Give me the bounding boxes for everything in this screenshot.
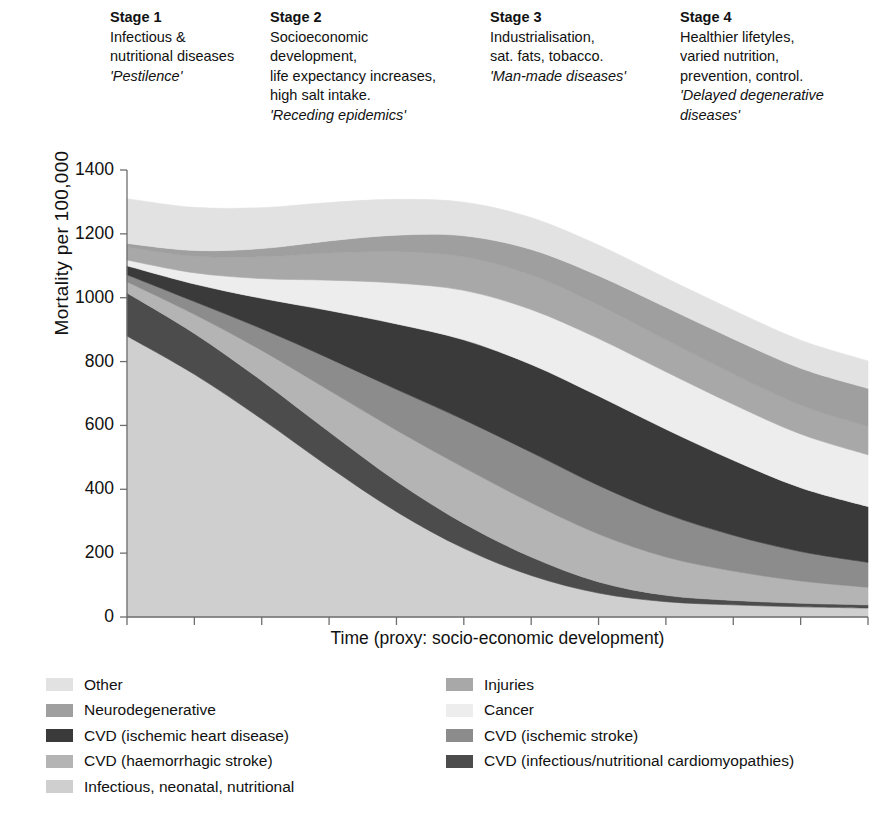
legend-label: Other bbox=[84, 676, 123, 694]
legend-swatch-icon bbox=[446, 729, 473, 742]
legend-swatch-icon bbox=[46, 780, 73, 793]
legend-swatch-icon bbox=[446, 704, 473, 717]
x-axis-title: Time (proxy: socio-economic development) bbox=[127, 628, 868, 649]
legend-item-infectious-neonatal-nutritional: Infectious, neonatal, nutritional bbox=[46, 774, 294, 800]
legend-swatch-icon bbox=[446, 678, 473, 691]
legend-label: CVD (haemorrhagic stroke) bbox=[84, 752, 273, 770]
legend-item-cvd-ischemic-heart-disease: CVD (ischemic heart disease) bbox=[46, 723, 294, 749]
legend-swatch-icon bbox=[46, 704, 73, 717]
legend-item-cvd-ischemic-stroke: CVD (ischemic stroke) bbox=[446, 723, 794, 749]
legend-label: CVD (infectious/nutritional cardiomyopat… bbox=[484, 752, 794, 770]
legend-item-injuries: Injuries bbox=[446, 672, 794, 698]
legend-swatch-icon bbox=[46, 755, 73, 768]
legend-column-right: InjuriesCancerCVD (ischemic stroke)CVD (… bbox=[446, 672, 794, 774]
legend-label: Infectious, neonatal, nutritional bbox=[84, 778, 294, 796]
legend-item-other: Other bbox=[46, 672, 294, 698]
legend-column-left: OtherNeurodegenerativeCVD (ischemic hear… bbox=[46, 672, 294, 800]
chart-legend: OtherNeurodegenerativeCVD (ischemic hear… bbox=[0, 672, 882, 832]
legend-label: Neurodegenerative bbox=[84, 701, 216, 719]
legend-item-cancer: Cancer bbox=[446, 698, 794, 724]
legend-label: CVD (ischemic heart disease) bbox=[84, 727, 289, 745]
legend-item-neurodegenerative: Neurodegenerative bbox=[46, 698, 294, 724]
legend-swatch-icon bbox=[46, 729, 73, 742]
legend-item-cvd-haemorrhagic-stroke: CVD (haemorrhagic stroke) bbox=[46, 749, 294, 775]
legend-swatch-icon bbox=[46, 678, 73, 691]
legend-label: CVD (ischemic stroke) bbox=[484, 727, 638, 745]
legend-label: Cancer bbox=[484, 701, 534, 719]
legend-swatch-icon bbox=[446, 755, 473, 768]
legend-item-cvd-infectious-nutritional-cardiomyopathies: CVD (infectious/nutritional cardiomyopat… bbox=[446, 749, 794, 775]
legend-label: Injuries bbox=[484, 676, 534, 694]
stacked-area-plot bbox=[0, 0, 882, 640]
